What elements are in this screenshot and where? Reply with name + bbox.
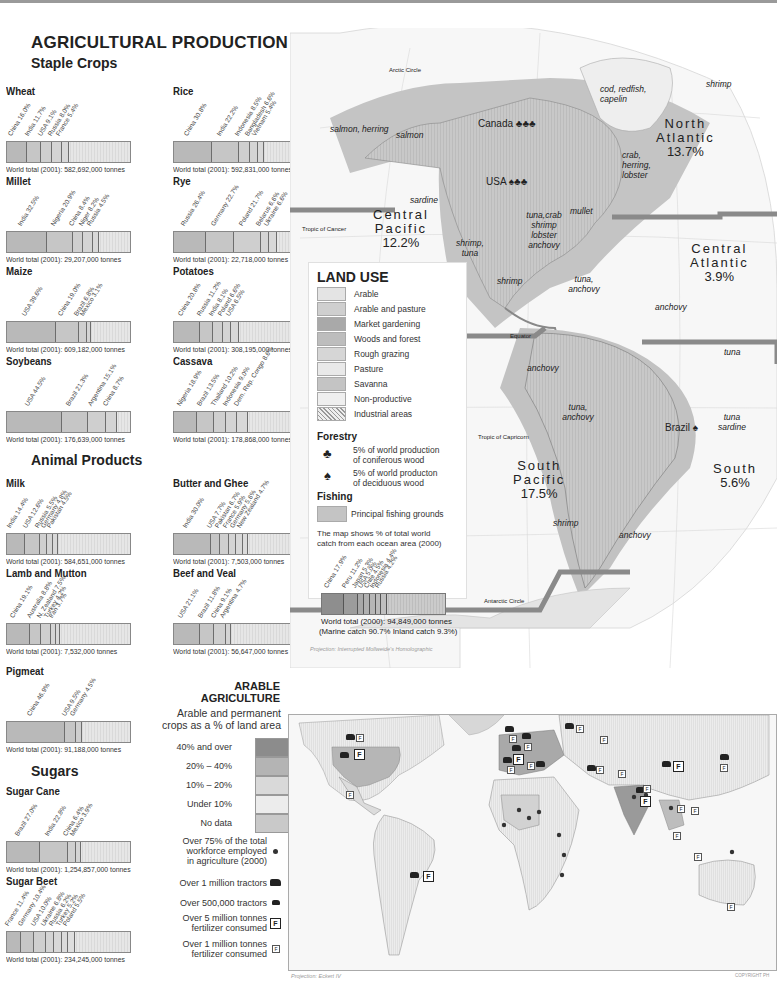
land-use-legend: LAND USE Arable Arable and pasture Marke…: [308, 262, 467, 599]
chart-segment: [243, 534, 249, 554]
deciduous-tree-icon: ♠: [693, 422, 698, 433]
chart-bar: [173, 141, 298, 163]
small-fertilizer-icon: F: [346, 791, 354, 799]
globe-projection-note: Projection: Interrupted Mollweide's Homo…: [310, 646, 432, 652]
equator-label: Equator: [510, 333, 531, 339]
chart-bar: [173, 321, 298, 343]
tractor-icon: [346, 734, 355, 740]
chart-segment: [214, 412, 227, 432]
small-fertilizer-icon: F: [576, 725, 584, 733]
chart-segment: [7, 932, 21, 952]
chart-segment: [54, 932, 62, 952]
arable-subtitle: Arable and permanentcrops as a % of land…: [150, 707, 281, 731]
arable-title: ARABLEAGRICULTURE: [180, 680, 280, 704]
chart-label: China 30.8%: [182, 102, 208, 137]
chart-bar: [173, 411, 298, 433]
land-use-label: Industrial areas: [354, 409, 412, 419]
chart-segment: [174, 142, 212, 162]
small-fertilizer-icon: F: [677, 805, 685, 813]
deciduous-tree-icon: ♠: [324, 468, 331, 483]
section-animal-products: Animal Products: [31, 452, 142, 468]
chart-labels: India 30.0%USA 7.7%Pakistan 6.7%France 5…: [173, 491, 298, 529]
chart-bar: [6, 321, 131, 343]
chart-segment: [21, 932, 34, 952]
chart-segment: [40, 534, 47, 554]
copyright-note: COPYRIGHT PH: [735, 973, 769, 978]
chart-rice: RiceChina 30.8%India 22.2%Indonesia 8.5%…: [173, 85, 298, 175]
arable-class-label: No data: [150, 818, 232, 828]
land-use-label: Savanna: [354, 379, 388, 389]
chart-segment: [25, 534, 40, 554]
large-fertilizer-icon: F: [673, 761, 684, 772]
fishing-grounds-swatch: [317, 506, 347, 522]
fish-label: crab, herring, lobster: [622, 150, 662, 180]
arable-symbol-label: Over 75% of the totalworkforce employedi…: [140, 836, 267, 866]
arable-class-swatch: [255, 776, 292, 795]
chart-segment: [62, 412, 88, 432]
large-fertilizer-icon: F: [423, 871, 434, 882]
chart-title: Maize: [6, 265, 32, 277]
chart-labels: USA 21.1%Brazil 11.8%China 9.1%Argentina…: [173, 581, 298, 619]
fish-label: tuna, anchovy: [558, 402, 598, 422]
tractor-icon: [662, 761, 671, 767]
tropic-of-cancer-label: Tropic of Cancer: [302, 226, 346, 232]
land-use-swatch: [317, 362, 346, 376]
section-staple-crops: Staple Crops: [31, 55, 117, 71]
chart-segment: [93, 232, 99, 252]
small-fertilizer-icon: F: [720, 764, 728, 772]
small-fertilizer-icon: F: [524, 743, 532, 751]
chart-segment: [213, 322, 223, 342]
chart-segment: [174, 232, 206, 252]
chart-labels: China 46.9%USA 9.5%Germany 4.5%: [6, 679, 131, 717]
chart-segment: [226, 412, 237, 432]
ocean-label-north-atlantic: NorthAtlantic13.7%: [656, 117, 715, 159]
chart-segment: [68, 932, 75, 952]
chart-segment: [56, 624, 61, 644]
chart-soybeans: SoybeansUSA 44.5%Brazil 21.3%Argentina 1…: [6, 355, 131, 445]
chart-labels: China 16.0%India 11.7%USA 9.1%Russia 8.0…: [6, 99, 131, 137]
chart-bar: [173, 533, 298, 555]
chart-title: Potatoes: [173, 265, 214, 277]
chart-segment: [212, 142, 239, 162]
fish-label: shrimp: [497, 276, 523, 286]
chart-labels: China 17.9%Peru 11.2%Japan 5.3%USA 5.0%C…: [321, 551, 446, 589]
chart-segment: [322, 594, 344, 614]
chart-segment: [214, 624, 225, 644]
chart-bar: [173, 231, 298, 253]
chart-milk: MilkIndia 14.4%USA 12.6%Russia 5.5%Germa…: [6, 477, 131, 567]
land-use-label: Market gardening: [354, 319, 420, 329]
country-label-canada: Canada ♣♣♣: [478, 118, 536, 129]
fishing-grounds-label: Principal fishing grounds: [351, 509, 444, 519]
arable-class-label: 40% and over: [150, 742, 232, 752]
chart-segment: [231, 322, 239, 342]
fish-label: tuna,crab shrimp lobster anchovy: [520, 210, 568, 250]
small-fertilizer-icon: F: [527, 762, 535, 770]
land-use-label: Pasture: [354, 364, 383, 374]
chart-title: Millet: [6, 175, 31, 187]
tractor-icon: [565, 723, 574, 729]
chart-bar: [6, 231, 131, 253]
chart-segment: [53, 534, 59, 554]
chart-segment: [261, 232, 269, 252]
land-use-swatch: [317, 347, 346, 361]
chart-label: Russia 26.4%: [179, 189, 206, 227]
tractor-icon: [503, 757, 512, 763]
chart-label: USA 44.5%: [23, 375, 47, 407]
fish-label: anchovy: [619, 530, 651, 540]
chart-bar: [6, 623, 131, 645]
chart-title: Sugar Cane: [6, 785, 60, 797]
chart-labels: China 19.1%Australia 8.8%N. Zealand 7.5%…: [6, 581, 131, 619]
arable-class-swatch: [255, 738, 292, 757]
arable-class-swatch: [255, 795, 292, 814]
chart-fishing-catch: China 17.9%Peru 11.2%Japan 5.3%USA 5.0%C…: [321, 553, 446, 573]
land-use-swatch: [317, 407, 346, 421]
chart-segment: [27, 142, 41, 162]
chart-segment: [381, 594, 386, 614]
chart-labels: Russia 26.4%Germany 22.7%Poland 21.7%Bel…: [173, 189, 298, 227]
chart-rye: RyeRussia 26.4%Germany 22.7%Poland 21.7%…: [173, 175, 298, 265]
chart-total: World total (2001): 176,639,000 tonnes: [6, 435, 125, 444]
conifer-tree-icon: ♣♣♣: [516, 118, 536, 129]
land-use-swatch: [317, 317, 346, 331]
fish-label: tuna sardine: [714, 412, 750, 432]
small-tractor-icon: [272, 900, 280, 905]
